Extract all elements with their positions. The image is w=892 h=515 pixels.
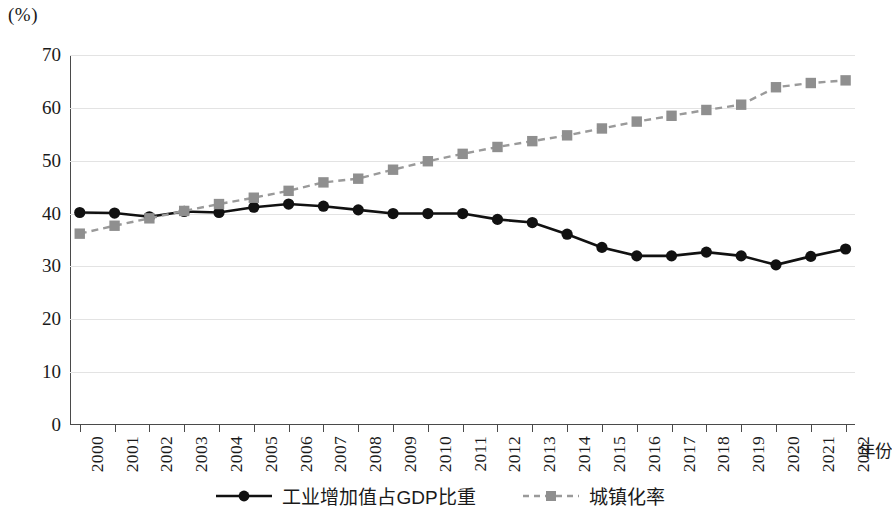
x-axis-tick: [706, 425, 707, 432]
legend-swatch-urbanization-line-icon: [522, 488, 580, 504]
y-axis-tick-label: 30: [42, 255, 61, 277]
y-axis-tick-label: 40: [42, 203, 61, 225]
x-axis-tick-label: 2000: [87, 436, 108, 472]
data-point-marker: [840, 75, 850, 85]
data-point-marker: [666, 111, 676, 121]
data-point-marker: [109, 207, 120, 218]
x-axis-tick: [219, 425, 220, 432]
data-point-marker: [318, 177, 328, 187]
series-layer: [70, 55, 855, 425]
data-point-marker: [492, 142, 502, 152]
data-point-marker: [353, 204, 364, 215]
data-point-marker: [75, 228, 85, 238]
data-point-marker: [74, 207, 85, 218]
y-axis-tick-label: 60: [42, 97, 61, 119]
y-axis-unit-label: (%): [8, 4, 38, 26]
x-axis-tick-label: 2008: [365, 436, 386, 472]
y-axis-tick-label: 10: [42, 361, 61, 383]
data-point-marker: [701, 105, 711, 115]
x-axis-tick: [567, 425, 568, 432]
x-axis-tick-label: 2011: [470, 436, 491, 472]
x-axis-tick: [497, 425, 498, 432]
x-axis-tick: [358, 425, 359, 432]
legend-item-urbanization[interactable]: 城镇化率: [522, 482, 665, 509]
data-point-marker: [387, 208, 398, 219]
data-point-marker: [109, 221, 119, 231]
data-point-marker: [596, 242, 607, 253]
data-point-marker: [388, 165, 398, 175]
x-axis-tick-label: 2012: [504, 436, 525, 472]
data-point-marker: [422, 208, 433, 219]
data-point-marker: [144, 213, 154, 223]
x-axis-tick: [289, 425, 290, 432]
x-axis-tick: [463, 425, 464, 432]
data-point-marker: [632, 116, 642, 126]
legend-label-urbanization: 城镇化率: [589, 482, 665, 509]
x-axis-tick-label: 2017: [679, 436, 700, 472]
x-axis-tick-label: 2002: [156, 436, 177, 472]
x-axis-tick: [428, 425, 429, 432]
x-axis-tick: [811, 425, 812, 432]
x-axis-tick: [80, 425, 81, 432]
x-axis-tick-label: 2009: [400, 436, 421, 472]
x-axis-tick: [254, 425, 255, 432]
x-axis-tick-label: 2016: [644, 436, 665, 472]
data-point-marker: [666, 250, 677, 261]
x-axis-tick: [602, 425, 603, 432]
x-axis-tick-label: 2006: [296, 436, 317, 472]
x-axis-tick: [323, 425, 324, 432]
chart-legend: 工业增加值占GDP比重 城镇化率: [0, 482, 880, 509]
data-point-marker: [318, 201, 329, 212]
x-axis-tick-label: 2007: [330, 436, 351, 472]
x-axis-tick-label: 2003: [191, 436, 212, 472]
x-axis-tick-label: 2001: [122, 436, 143, 472]
plot-area: 010203040506070 200020012002200320042005…: [70, 55, 855, 425]
data-point-marker: [492, 214, 503, 225]
data-point-marker: [701, 247, 712, 258]
legend-label-industry: 工业增加值占GDP比重: [282, 482, 475, 509]
x-axis-tick: [115, 425, 116, 432]
data-point-marker: [423, 156, 433, 166]
x-axis-tick: [776, 425, 777, 432]
x-axis-tick-label: 2020: [783, 436, 804, 472]
x-axis-tick-label: 2019: [748, 436, 769, 472]
x-axis-tick: [672, 425, 673, 432]
data-point-marker: [179, 206, 189, 216]
data-point-marker: [527, 217, 538, 228]
data-point-marker: [770, 259, 781, 270]
x-axis-tick-label: 2021: [818, 436, 839, 472]
data-point-marker: [527, 136, 537, 146]
data-point-marker: [283, 198, 294, 209]
data-point-marker: [249, 193, 259, 203]
legend-item-industry[interactable]: 工业增加值占GDP比重: [215, 482, 475, 509]
data-point-marker: [562, 130, 572, 140]
data-point-marker: [736, 250, 747, 261]
x-axis-tick: [393, 425, 394, 432]
x-axis-tick-label: 2010: [435, 436, 456, 472]
data-point-marker: [457, 149, 467, 159]
y-axis-tick-label: 0: [52, 414, 62, 436]
x-axis-tick: [149, 425, 150, 432]
legend-swatch-industry-line-icon: [215, 488, 273, 504]
x-axis-tick-label: 2014: [574, 436, 595, 472]
data-point-marker: [562, 229, 573, 240]
x-axis-tick-label: 2013: [539, 436, 560, 472]
data-point-marker: [214, 199, 224, 209]
x-axis-tick-label: 2018: [713, 436, 734, 472]
data-point-marker: [353, 173, 363, 183]
data-point-marker: [840, 243, 851, 254]
x-axis-tick: [846, 425, 847, 432]
data-point-marker: [597, 123, 607, 133]
x-axis-tick-label: 2004: [226, 436, 247, 472]
data-point-marker: [457, 208, 468, 219]
x-axis-tick: [532, 425, 533, 432]
x-axis-title: 年份: [858, 437, 892, 462]
x-axis-tick-label: 2015: [609, 436, 630, 472]
data-point-marker: [736, 99, 746, 109]
data-point-marker: [248, 202, 259, 213]
data-point-marker: [806, 78, 816, 88]
x-axis-tick: [741, 425, 742, 432]
y-axis-tick-label: 70: [42, 44, 61, 66]
data-point-marker: [631, 250, 642, 261]
